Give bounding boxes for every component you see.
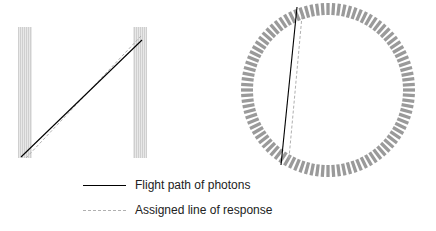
detector-crystal: [242, 103, 254, 109]
legend-item-flight-path: Flight path of photons: [83, 177, 250, 193]
legend-label-assigned-lor: Assigned line of response: [135, 203, 272, 217]
detector-crystal: [346, 162, 352, 174]
detector-crystal: [346, 6, 352, 18]
detector-crystal: [331, 165, 335, 177]
detector-crystal: [242, 98, 254, 103]
detector-crystal: [304, 162, 310, 174]
detector-crystal: [400, 66, 412, 72]
detector-crystal: [403, 93, 415, 97]
detector-crystal: [244, 108, 256, 114]
detector-crystal: [315, 164, 320, 176]
detector-crystal: [326, 3, 329, 15]
assigned-lor-line: [289, 16, 302, 158]
legend-label-flight-path: Flight path of photons: [135, 178, 250, 192]
detector-crystal: [400, 108, 412, 114]
detector-crystal: [242, 71, 254, 77]
solid-line-swatch: [83, 185, 126, 186]
detector-crystal: [336, 164, 341, 176]
detector-crystal: [242, 77, 254, 82]
dashed-line-swatch: [83, 210, 126, 211]
detector-crystal: [341, 4, 347, 16]
detector-crystal: [315, 4, 320, 16]
detector-crystal: [321, 3, 325, 15]
detector-crystal: [241, 88, 253, 91]
detector-crystal: [241, 83, 253, 87]
pet-detector-diagram: [0, 0, 436, 231]
detector-crystal: [309, 4, 315, 16]
detector-crystal: [331, 3, 335, 15]
detector-crystal: [241, 93, 253, 97]
legend-item-assigned-lor: Assigned line of response: [83, 202, 272, 218]
flight-path-line: [281, 7, 297, 165]
flight-path-line: [21, 40, 142, 157]
detector-crystal: [326, 165, 329, 177]
detector-crystal: [336, 4, 341, 16]
detector-crystal: [401, 71, 413, 77]
detector-crystal: [309, 163, 315, 175]
detector-ring: [241, 3, 415, 177]
detector-crystal: [304, 6, 310, 18]
detector-crystal: [341, 163, 347, 175]
detector-crystal: [402, 77, 414, 82]
detector-crystal: [321, 165, 325, 177]
detector-crystal: [244, 66, 256, 72]
detector-bar-left: [18, 27, 32, 158]
planar-detector-panel: [18, 27, 147, 158]
detector-crystal: [403, 83, 415, 87]
ring-detector-panel: [241, 3, 415, 177]
detector-crystal: [401, 103, 413, 109]
detector-crystal: [403, 88, 415, 91]
detector-crystal: [402, 98, 414, 103]
